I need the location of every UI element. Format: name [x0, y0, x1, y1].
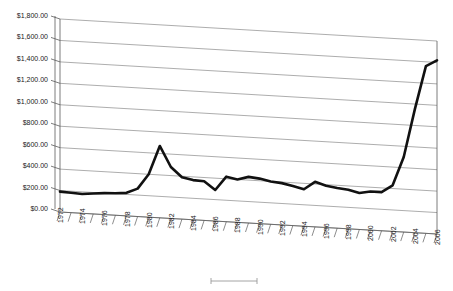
- y-axis-tick-label: $0.00: [0, 205, 48, 213]
- gridlines: [60, 19, 437, 234]
- x-axis-tick-label: 1990: [257, 219, 265, 235]
- x-axis-tick-label: 1976: [101, 210, 109, 226]
- y-axis-tick-label: $200.00: [0, 184, 48, 192]
- y-axis-tick-label: $1,600.00: [0, 33, 48, 41]
- y-axis-tick-label: $1,400.00: [0, 55, 48, 63]
- x-axis-tick-label: 2006: [434, 229, 442, 245]
- x-axis-tick-label: 1994: [301, 222, 309, 238]
- x-axis-tick-label: 1982: [168, 214, 176, 230]
- chart-container: $0.00$200.00$400.00$600.00$800.00$1,000.…: [0, 0, 453, 291]
- x-axis-ticks: [57, 212, 437, 243]
- x-axis-tick-label: 2004: [412, 228, 420, 244]
- x-axis-tick-label: 1978: [124, 211, 132, 227]
- y-axis-tick-label: $1,800.00: [0, 12, 48, 20]
- legend-marker: [211, 278, 257, 284]
- x-axis-tick-label: 2000: [367, 226, 375, 242]
- x-axis-tick-label: 1992: [279, 220, 287, 236]
- y-axis-tick-label: $1,200.00: [0, 76, 48, 84]
- chart-plot-area: [0, 0, 453, 291]
- x-axis-tick-label: 1980: [146, 213, 154, 229]
- y-axis-tick-label: $800.00: [0, 119, 48, 127]
- y-axis-ticks: [51, 16, 60, 212]
- x-axis-tick-label: 1972: [57, 207, 65, 223]
- x-axis-tick-label: 1988: [234, 218, 242, 234]
- x-axis-tick-label: 2002: [390, 227, 398, 243]
- x-axis-tick-label: 1986: [212, 216, 220, 232]
- y-axis-tick-label: $400.00: [0, 162, 48, 170]
- x-axis-tick-label: 1998: [345, 224, 353, 240]
- x-axis-tick-label: 1996: [323, 223, 331, 239]
- y-axis-tick-label: $600.00: [0, 141, 48, 149]
- x-axis-tick-label: 1974: [79, 209, 87, 225]
- y-axis-tick-label: $1,000.00: [0, 98, 48, 106]
- x-axis-tick-label: 1984: [190, 215, 198, 231]
